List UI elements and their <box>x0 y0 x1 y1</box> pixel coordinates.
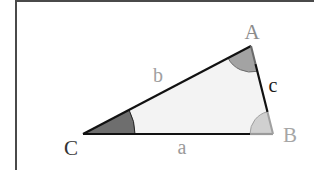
vertex-label-a: A <box>244 20 260 44</box>
side-label-b: b <box>153 64 163 86</box>
vertex-label-c: C <box>64 136 78 160</box>
triangle-diagram: A B C a b c <box>0 0 314 170</box>
vertex-label-b: B <box>283 123 297 147</box>
side-label-a: a <box>178 136 187 158</box>
side-label-c: c <box>269 74 278 96</box>
